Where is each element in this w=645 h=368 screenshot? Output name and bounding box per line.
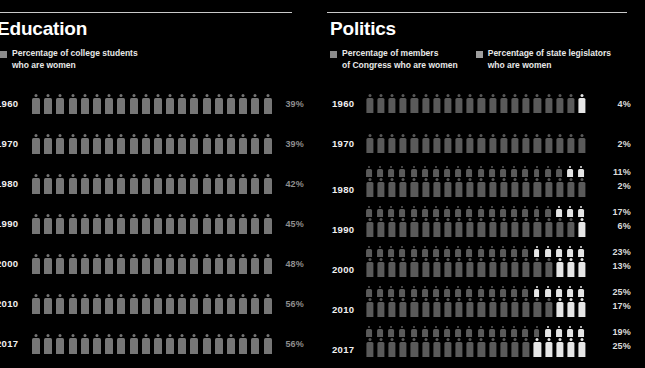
person-icon [511,166,517,177]
person-icon [44,214,52,234]
person-icon [467,258,474,277]
person-icon [377,286,383,297]
chart-row: 198042% [0,164,322,204]
person-icon [422,258,429,277]
person-icon [130,214,138,234]
person-icon [500,246,506,257]
person-icon [478,166,484,177]
person-icon [511,134,518,153]
person-icon [166,94,174,114]
person-icon [264,334,272,354]
person-icon [467,166,473,177]
row-bars [32,214,272,234]
person-icon [56,334,64,354]
person-icon [444,326,450,337]
person-icon [422,286,428,297]
person-icon [227,214,235,234]
person-icon [142,174,150,194]
person-icon [511,178,518,197]
chart-row: 201756% [0,324,322,364]
person-icon [467,326,473,337]
person-icon [32,254,40,274]
person-icon [478,298,485,317]
legend-item-state_legislators: Percentage of state legislators who are … [476,48,611,71]
person-icon [444,286,450,297]
person-icon [56,254,64,274]
person-icon [81,174,89,194]
person-icon [377,206,383,217]
person-icon [56,294,64,314]
person-icon [264,214,272,234]
person-icon [366,286,372,297]
person-icon [166,334,174,354]
person-icon [444,298,451,317]
person-icon [534,298,541,317]
person-icon [69,214,77,234]
person-icon [81,214,89,234]
pictogram-bar-congress [366,178,586,197]
person-icon [239,254,247,274]
person-icon [93,334,101,354]
person-icon [44,174,52,194]
person-icon [227,294,235,314]
person-icon [178,94,186,114]
person-icon [264,94,272,114]
person-icon [227,134,235,154]
person-icon [523,218,530,237]
person-icon [422,298,429,317]
person-icon [32,174,40,194]
person-icon [93,134,101,154]
person-icon [203,294,211,314]
person-icon [56,94,64,114]
person-icon [178,174,186,194]
person-icon [433,338,440,357]
person-icon [142,334,150,354]
person-icon-highlighted [534,286,540,297]
row-percent-label: 2% [618,139,631,149]
person-icon [511,206,517,217]
chart-row: 201719%25% [322,324,645,364]
person-icon [117,174,125,194]
person-icon [534,166,540,177]
person-icon [178,214,186,234]
person-icon [130,134,138,154]
person-icon [264,254,272,274]
person-icon-highlighted [556,258,563,277]
page-title-politics: Politics [330,18,396,40]
person-icon [203,134,211,154]
person-icon-highlighted [579,218,586,237]
person-icon [178,254,186,274]
person-icon [93,294,101,314]
person-icon [69,174,77,194]
legend-swatch-icon [330,51,337,58]
person-icon [142,254,150,274]
person-icon [81,254,89,274]
person-icon [444,218,451,237]
person-icon [215,174,223,194]
person-icon [478,178,485,197]
person-icon [545,134,552,153]
person-icon-highlighted [579,94,586,113]
person-icon [366,178,373,197]
legend-swatch-icon [0,51,7,58]
person-icon [444,166,450,177]
person-icon [239,214,247,234]
person-icon [444,206,450,217]
person-icon [215,134,223,154]
person-icon-highlighted [545,246,551,257]
person-icon [433,206,439,217]
person-icon [545,298,552,317]
person-icon [388,326,394,337]
row-percent-label: 39% [285,99,304,109]
person-icon [142,214,150,234]
person-icon [411,166,417,177]
person-icon [534,178,541,197]
person-icon [433,218,440,237]
person-icon [366,134,373,153]
row-percent-label: 48% [285,259,304,269]
person-icon [534,258,541,277]
person-icon [377,298,384,317]
person-icon [81,94,89,114]
person-icon [422,326,428,337]
person-icon [511,298,518,317]
